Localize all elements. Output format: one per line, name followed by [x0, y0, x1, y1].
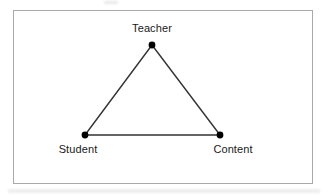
edge-teacher-student	[85, 45, 152, 135]
node-teacher	[149, 42, 156, 49]
triangle-nodes	[82, 42, 224, 139]
node-student	[82, 132, 89, 139]
triangle-edges	[85, 45, 220, 135]
node-label-student: Student	[59, 143, 98, 155]
node-content	[217, 132, 224, 139]
node-label-teacher: Teacher	[132, 22, 172, 34]
edge-teacher-content	[152, 45, 220, 135]
node-label-content: Content	[213, 143, 252, 155]
figure-page: Teacher Student Content	[0, 0, 328, 195]
